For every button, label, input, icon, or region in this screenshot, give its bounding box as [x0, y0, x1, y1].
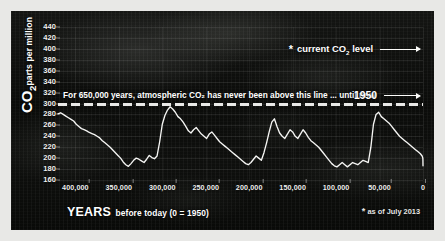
- x-tick-mark: [425, 179, 426, 183]
- x-axis-title-main: YEARS: [67, 205, 111, 219]
- x-tick-mark: [176, 179, 177, 183]
- x-tick-mark: [219, 179, 220, 183]
- gridline: [423, 27, 424, 180]
- x-tick-mark: [349, 179, 350, 183]
- x-axis-title: YEARS before today (0 = 1950): [67, 202, 209, 220]
- gridline: [58, 71, 423, 72]
- footnote-text: as of July 2013: [367, 207, 420, 216]
- x-tick-label: 400,000: [62, 183, 89, 192]
- x-tick-label: 0: [421, 183, 425, 192]
- callout-1950: 1950: [354, 90, 420, 101]
- callout-1950-label: 1950: [354, 90, 377, 101]
- gridline: [58, 158, 423, 159]
- footnote-asterisk: *: [362, 206, 366, 216]
- x-tick-mark: [263, 179, 264, 183]
- callout-current-co2-level: * current CO2 level: [289, 43, 420, 56]
- x-axis-title-sub: before today (0 = 1950): [116, 208, 209, 218]
- x-tick-label: 250,000: [192, 183, 219, 192]
- gridline: [58, 60, 423, 61]
- y-tick-label: 180: [14, 165, 56, 173]
- figure-frame: 4404204003803603403203002802602402202001…: [0, 0, 445, 241]
- gridline: [58, 169, 423, 170]
- asterisk-marker: *: [289, 44, 293, 55]
- y-tick-label: 220: [14, 143, 56, 151]
- arrow-to-1950-level: [384, 95, 420, 96]
- y-axis-title: CO2parts per million: [18, 11, 38, 136]
- chart-panel: 4404204003803603403203002802602402202001…: [11, 11, 434, 230]
- gridline: [58, 114, 423, 115]
- threshold-annotation-text: For 650,000 years, atmospheric CO₂ has n…: [63, 90, 376, 100]
- y-axis-title-sub: parts per million: [24, 17, 34, 86]
- gridline: [58, 125, 423, 126]
- y-tick-label: 160: [14, 176, 56, 184]
- gridline: [58, 136, 423, 137]
- x-tick-label: 150,000: [279, 183, 306, 192]
- x-tick-label: 200,000: [236, 183, 263, 192]
- x-tick-mark: [391, 179, 392, 183]
- gridline: [58, 180, 423, 181]
- gridline: [58, 82, 423, 83]
- callout-current-label: current CO2 level: [297, 43, 373, 56]
- footnote: * as of July 2013: [362, 206, 420, 216]
- gridline: [58, 147, 423, 148]
- x-tick-mark: [132, 179, 133, 183]
- x-tick-mark: [89, 179, 90, 183]
- arrow-to-current-level: [380, 49, 420, 50]
- x-tick-mark: [306, 179, 307, 183]
- x-tick-label: 350,000: [105, 183, 132, 192]
- threshold-line-300ppm: [58, 103, 423, 106]
- x-tick-label: 50,000: [368, 183, 391, 192]
- y-tick-label: 200: [14, 154, 56, 162]
- y-axis-title-main: CO2: [18, 86, 35, 113]
- x-tick-label: 100,000: [323, 183, 350, 192]
- gridline: [58, 38, 423, 39]
- x-tick-label: 300,000: [149, 183, 176, 192]
- gridline: [58, 27, 423, 28]
- x-axis-tick-labels: 400,000350,000300,000250,000200,000150,0…: [58, 183, 423, 197]
